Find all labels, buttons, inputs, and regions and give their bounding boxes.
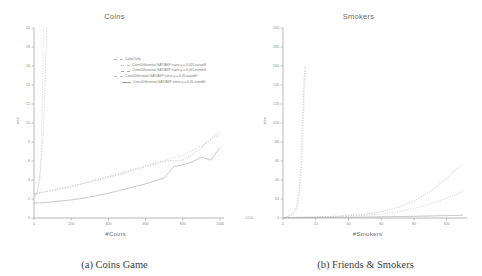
- svg-text:80: 80: [412, 222, 416, 226]
- svg-text:14: 14: [26, 83, 30, 87]
- svg-text:18: 18: [26, 45, 30, 49]
- legend-swatch-icon: [114, 59, 123, 60]
- svg-text:4: 4: [28, 178, 30, 182]
- svg-text:80: 80: [275, 140, 279, 144]
- chart-title-smokers: Smokers: [238, 12, 479, 21]
- y-axis-label-coins: sec: [15, 117, 20, 124]
- legend-label: CoinsDifferential SAT/ASP naive μ = 0.05…: [133, 80, 205, 86]
- svg-text:1000: 1000: [216, 222, 224, 226]
- svg-text:8: 8: [28, 140, 30, 144]
- svg-text:400: 400: [105, 222, 111, 226]
- chart-title-coins: Coins: [0, 12, 235, 21]
- svg-text:12: 12: [26, 102, 30, 106]
- svg-text:100: 100: [273, 121, 279, 125]
- svg-text:200: 200: [68, 222, 74, 226]
- svg-text:40: 40: [346, 222, 350, 226]
- legend-coins: CoinsTuffy CoinsDifferential SAT/ASP nai…: [114, 57, 206, 85]
- legend-swatch-icon: [122, 82, 131, 83]
- svg-text:0: 0: [277, 216, 279, 220]
- svg-text:10: 10: [26, 121, 30, 125]
- svg-text:20: 20: [314, 222, 318, 226]
- panel-coins: Coins sec 024681012141618200200400600800…: [0, 0, 241, 276]
- legend-item: CoinsDifferential SAT/ASP naive μ = 0.05…: [122, 80, 206, 86]
- svg-text:6: 6: [28, 159, 30, 163]
- legend-swatch-icon: [121, 71, 130, 72]
- svg-text:100: 100: [444, 222, 450, 226]
- panel-caption-smokers: (b) Friends & Smokers: [245, 259, 482, 270]
- legend-swatch-icon: [114, 76, 123, 77]
- svg-text:120: 120: [273, 102, 279, 106]
- svg-text:2: 2: [28, 197, 30, 201]
- stray-axis-tick-label: -1000: [244, 216, 253, 220]
- svg-text:60: 60: [379, 222, 383, 226]
- panel-smokers: Smokers sec -1000 0204060801001201401601…: [241, 0, 482, 276]
- x-axis-label-coins: #Coins: [0, 230, 236, 237]
- svg-text:60: 60: [275, 159, 279, 163]
- svg-text:20: 20: [275, 197, 279, 201]
- svg-text:0: 0: [28, 216, 30, 220]
- svg-text:600: 600: [143, 222, 149, 226]
- legend-swatch-icon: [121, 65, 130, 66]
- y-axis-label-smokers: sec: [262, 117, 267, 124]
- plot-area-smokers: 020406080100120140160180200020406080100: [283, 28, 463, 218]
- svg-text:40: 40: [275, 178, 279, 182]
- svg-text:800: 800: [180, 222, 186, 226]
- x-axis-label-smokers: #Smokers: [247, 230, 482, 237]
- chart-svg-smokers: 020406080100120140160180200020406080100: [283, 28, 463, 218]
- svg-text:200: 200: [273, 26, 279, 30]
- panel-caption-coins: (a) Coins Game: [0, 259, 235, 270]
- svg-text:20: 20: [26, 26, 30, 30]
- svg-text:0: 0: [282, 222, 284, 226]
- svg-text:0: 0: [33, 222, 35, 226]
- svg-text:16: 16: [26, 64, 30, 68]
- svg-text:140: 140: [273, 83, 279, 87]
- svg-text:180: 180: [273, 45, 279, 49]
- svg-text:160: 160: [273, 64, 279, 68]
- figure-two-panel: Coins sec 024681012141618200200400600800…: [0, 0, 482, 276]
